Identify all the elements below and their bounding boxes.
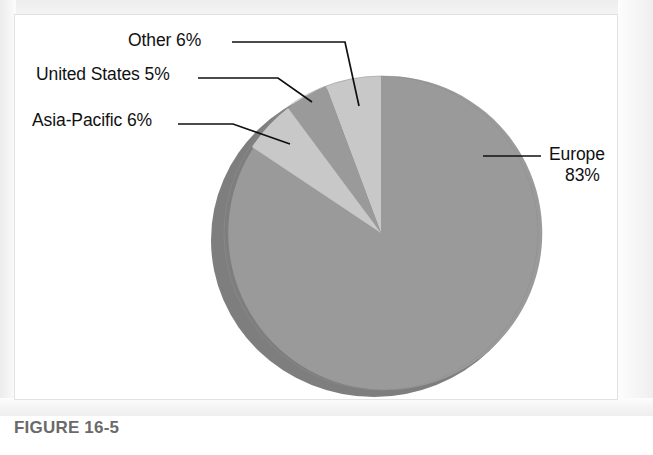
label-europe-name: Europe [549, 144, 605, 164]
label-europe: Europe 83% [549, 144, 605, 186]
leader-line-united-states [198, 78, 312, 102]
label-united-states: United States 5% [36, 64, 170, 85]
pie-chart [0, 0, 653, 410]
figure-caption: FIGURE 16-5 [14, 418, 119, 438]
label-asia-pacific: Asia-Pacific 6% [32, 110, 152, 131]
label-other: Other 6% [128, 30, 201, 51]
label-europe-value: 83% [549, 165, 605, 186]
figure-page: Other 6% United States 5% Asia-Pacific 6… [0, 0, 653, 455]
